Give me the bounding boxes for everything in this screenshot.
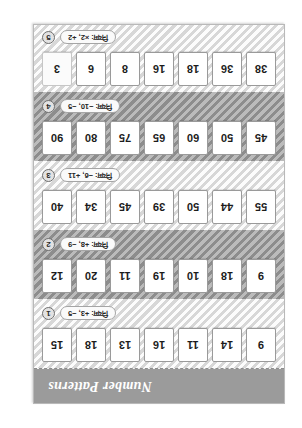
pattern-cell[interactable]: 10	[178, 259, 208, 293]
worksheet-title-bar: Number Patterns	[34, 369, 284, 403]
pattern-cell[interactable]: 18	[212, 259, 242, 293]
pattern-cell[interactable]: 75	[110, 121, 140, 155]
pattern-cell[interactable]: 45	[246, 121, 276, 155]
pattern-cell[interactable]: 36	[212, 52, 242, 86]
row-number-badge: 5	[42, 31, 55, 44]
pattern-cell[interactable]: 50	[212, 121, 242, 155]
pattern-row-footer: 5 नियम: ×2, +2	[42, 30, 276, 44]
row-number-badge: 1	[42, 307, 55, 320]
pattern-cell[interactable]: 80	[76, 121, 106, 155]
row-number-badge: 4	[42, 100, 55, 113]
pattern-cell[interactable]: 20	[76, 259, 106, 293]
pattern-cell[interactable]: 9	[246, 259, 276, 293]
pattern-cell[interactable]: 11	[110, 259, 140, 293]
rule-label: नियम: +8, −9	[60, 237, 116, 251]
pattern-cell[interactable]: 19	[144, 259, 174, 293]
rule-label: नियम: −6, +11	[60, 168, 120, 182]
pattern-cell[interactable]: 13	[110, 328, 140, 362]
pattern-cells: 15 18 13 16 11 14 9	[42, 328, 276, 362]
pattern-row: 15 18 13 16 11 14 9 1 नियम: +3, −5	[34, 299, 284, 368]
pattern-cell[interactable]: 44	[212, 190, 242, 224]
pattern-row: 90 80 75 65 60 50 45 4 नियम: −10, −5	[34, 92, 284, 161]
pattern-cell[interactable]: 18	[178, 52, 208, 86]
rule-label: नियम: −10, −5	[60, 99, 120, 113]
pattern-cell[interactable]: 38	[246, 52, 276, 86]
pattern-row-footer: 4 नियम: −10, −5	[42, 99, 276, 113]
pattern-cell[interactable]: 40	[42, 190, 72, 224]
title-divider	[34, 368, 284, 369]
pattern-cell[interactable]: 3	[42, 52, 72, 86]
pattern-row: 12 20 11 19 10 18 9 2 नियम: +8, −9	[34, 230, 284, 299]
pattern-cell[interactable]: 39	[144, 190, 174, 224]
pattern-cell[interactable]: 50	[178, 190, 208, 224]
row-number-badge: 3	[42, 169, 55, 182]
rule-label: नियम: +3, −5	[60, 306, 116, 320]
row-number-badge: 2	[42, 238, 55, 251]
pattern-cell[interactable]: 55	[246, 190, 276, 224]
pattern-cell[interactable]: 9	[246, 328, 276, 362]
pattern-cell[interactable]: 18	[76, 328, 106, 362]
pattern-cell[interactable]: 14	[212, 328, 242, 362]
rule-label: नियम: ×2, +2	[60, 30, 116, 44]
pattern-cell[interactable]: 90	[42, 121, 72, 155]
pattern-row: 40 34 45 39 50 44 55 3 नियम: −6, +11	[34, 161, 284, 230]
pattern-cell[interactable]: 12	[42, 259, 72, 293]
pattern-cells: 40 34 45 39 50 44 55	[42, 190, 276, 224]
worksheet-sheet: Number Patterns 15 18 13 16 11 14 9 1 नि…	[33, 24, 285, 404]
pattern-cell[interactable]: 16	[144, 328, 174, 362]
pattern-cell[interactable]: 65	[144, 121, 174, 155]
pattern-cell[interactable]: 34	[76, 190, 106, 224]
pattern-cell[interactable]: 8	[110, 52, 140, 86]
worksheet-page: Number Patterns 15 18 13 16 11 14 9 1 नि…	[0, 0, 302, 428]
pattern-cell[interactable]: 45	[110, 190, 140, 224]
pattern-row-footer: 1 नियम: +3, −5	[42, 306, 276, 320]
pattern-cells: 90 80 75 65 60 50 45	[42, 121, 276, 155]
pattern-cells: 3 6 8 16 18 36 38	[42, 52, 276, 86]
pattern-cell[interactable]: 60	[178, 121, 208, 155]
pattern-cell[interactable]: 11	[178, 328, 208, 362]
pattern-row: 3 6 8 16 18 36 38 5 नियम: ×2, +2	[34, 24, 284, 92]
pattern-cell[interactable]: 16	[144, 52, 174, 86]
pattern-row-footer: 2 नियम: +8, −9	[42, 237, 276, 251]
pattern-cell[interactable]: 15	[42, 328, 72, 362]
pattern-cell[interactable]: 6	[76, 52, 106, 86]
pattern-cells: 12 20 11 19 10 18 9	[42, 259, 276, 293]
pattern-row-footer: 3 नियम: −6, +11	[42, 168, 276, 182]
page-title: Number Patterns	[48, 378, 152, 394]
